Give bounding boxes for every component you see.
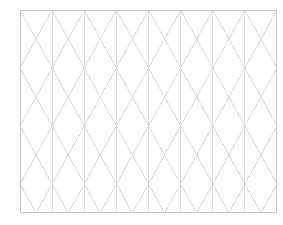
grid-paper-svg xyxy=(20,10,277,213)
screenshot-canvas xyxy=(0,0,283,225)
grid-paper-frame xyxy=(20,10,277,213)
